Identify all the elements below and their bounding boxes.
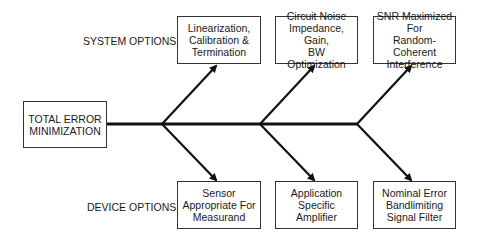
total-error-minimization-label: TOTAL ERROR MINIMIZATION [28, 113, 101, 137]
device-options-label: DEVICE OPTIONS [87, 201, 176, 213]
system-option-box-1: Linearization, Calibration & Termination [177, 16, 261, 64]
device-option-box-1: Sensor Appropriate For Measurand [177, 181, 261, 229]
system-option-box-3: SNR Maximized For Random-Coherent Interf… [373, 16, 456, 64]
system-arrows [162, 66, 411, 124]
device-option-box-3: Nominal Error Bandlimiting Signal Filter [373, 181, 456, 229]
system-options-label: SYSTEM OPTIONS [83, 35, 176, 47]
system-option-label: Linearization, Calibration & Termination [188, 22, 250, 58]
total-error-minimization-box: TOTAL ERROR MINIMIZATION [23, 101, 107, 148]
device-arrows [162, 124, 411, 180]
system-option-box-2: Circuit Noise Impedance, Gain, BW Optimi… [275, 16, 358, 64]
device-option-label: Sensor Appropriate For Measurand [183, 187, 256, 223]
device-option-label: Nominal Error Bandlimiting Signal Filter [382, 187, 447, 223]
system-option-label: SNR Maximized For Random-Coherent Interf… [376, 10, 453, 70]
system-option-label: Circuit Noise Impedance, Gain, BW Optimi… [278, 10, 355, 70]
device-option-label: Application Specific Amplifier [291, 187, 342, 223]
device-option-box-2: Application Specific Amplifier [275, 181, 358, 229]
